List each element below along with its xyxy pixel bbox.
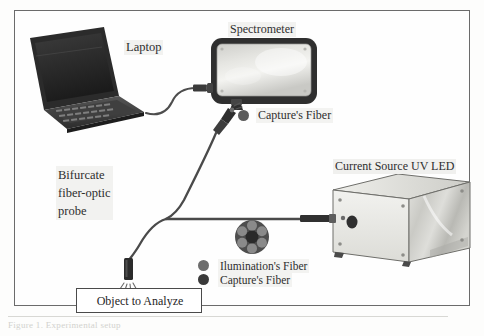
capture-fiber-marker-icon [238, 110, 249, 121]
label-laptop: Laptop [124, 40, 163, 55]
label-capture-fiber-top: Capture's Fiber [256, 108, 333, 123]
label-spectrometer: Spectrometer [228, 22, 296, 37]
legend-item-capture-fiber: Capture's Fiber [218, 273, 292, 287]
object-to-analyze-label: Object to Analyze [77, 289, 203, 314]
capture-fiber-marker-icon-legend [198, 274, 209, 285]
probe-label-line-1: Bifurcate [58, 166, 111, 184]
object-to-analyze-box: Object to Analyze [76, 288, 202, 313]
caption-divider [8, 316, 448, 317]
figure-canvas: Laptop Spectrometer Current Source UV LE… [0, 0, 484, 336]
legend-item-illumination-fiber: Ilumination's Fiber [218, 259, 309, 273]
label-uv-led: Current Source UV LED [333, 159, 456, 174]
probe-label-line-2: fiber-optic [58, 184, 111, 202]
illumination-fiber-marker-icon [198, 260, 209, 271]
probe-label-line-3: probe [58, 202, 111, 220]
figure-caption: Figure 1. Experimental setup [8, 320, 121, 330]
label-bifurcate-fiber-optic-probe: Bifurcate fiber-optic probe [56, 166, 113, 220]
